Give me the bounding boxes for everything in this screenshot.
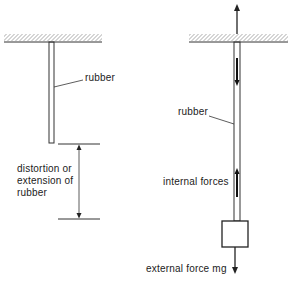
arrow-up-icon (77, 145, 82, 151)
left-rubber-leader (54, 80, 83, 87)
right-ceiling (189, 34, 288, 42)
extension-label: distortion or extension of rubber (17, 163, 73, 199)
arrow-up-icon (234, 4, 240, 11)
left-ceiling (4, 34, 102, 42)
internal-force-upper-arrow (235, 58, 240, 86)
arrow-down-icon (77, 213, 82, 219)
right-rubber-leader (209, 116, 234, 124)
arrow-down-icon (232, 267, 238, 274)
external-force-arrow (232, 247, 238, 274)
reaction-force-arrow (234, 4, 240, 34)
mass-block (222, 221, 248, 247)
arrow-up-icon (235, 168, 240, 174)
extension-label-line-2: extension of (17, 175, 73, 187)
extension-label-line-3: rubber (17, 187, 73, 199)
internal-force-lower-arrow (235, 168, 240, 197)
extension-label-line-1: distortion or (17, 163, 73, 175)
diagram-canvas (0, 0, 292, 286)
left-rubber-strip (49, 42, 54, 143)
internal-forces-label: internal forces (163, 176, 229, 188)
external-force-label: external force mg (146, 263, 227, 275)
arrow-down-icon (235, 80, 240, 86)
right-rubber-label: rubber (178, 106, 208, 118)
left-rubber-label: rubber (85, 72, 115, 84)
